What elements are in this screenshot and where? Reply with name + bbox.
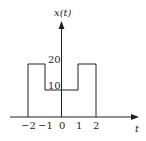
y-axis-label: x(t): [54, 7, 72, 18]
x-axis-arrow-icon: [131, 114, 139, 120]
tick-label-0: 0: [59, 120, 65, 131]
tick-label-10: 10: [48, 80, 61, 91]
x-axis-label: t: [135, 123, 140, 134]
tick-label-neg1: −1: [38, 120, 53, 131]
y-axis-arrow-icon: [59, 21, 65, 29]
tick-label-2: 2: [93, 120, 99, 131]
tick-label-20: 20: [48, 54, 61, 65]
tick-label-neg2: −2: [21, 120, 36, 131]
signal-plot: x(t) t 20 10 −2 −1 0 1 2: [0, 0, 146, 141]
tick-label-1: 1: [76, 120, 82, 131]
